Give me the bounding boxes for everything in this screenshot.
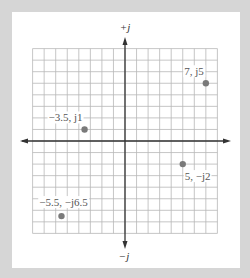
- data-point-label: 7, j5: [184, 65, 204, 77]
- axes: +j −j: [20, 21, 231, 262]
- imag-axis-down-arrow-icon: [123, 241, 128, 249]
- data-point: [81, 126, 87, 132]
- positive-imag-label: +j: [120, 21, 130, 33]
- negative-imag-label: −j: [119, 250, 129, 262]
- data-point: [58, 213, 64, 219]
- real-axis-right-arrow-icon: [223, 139, 231, 144]
- data-point-label: 5, −j2: [185, 170, 211, 182]
- complex-plane-plot: +j −j 7, j5−3.5, j15, −j2−5.5, −j6.5: [0, 0, 250, 278]
- real-axis-left-arrow-icon: [20, 139, 28, 144]
- imag-axis-up-arrow-icon: [123, 37, 128, 45]
- data-point: [180, 161, 186, 167]
- data-point: [203, 80, 209, 86]
- data-point-label: −3.5, j1: [49, 111, 83, 123]
- data-point-label: −5.5, −j6.5: [39, 196, 88, 208]
